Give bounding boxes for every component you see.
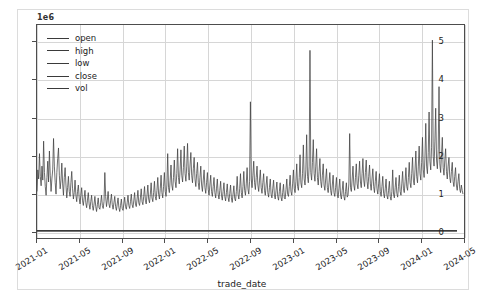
legend-item-low: low	[43, 57, 111, 70]
gridline-x-2024-05	[465, 25, 466, 238]
x-tick-mark-2023-01	[293, 239, 294, 243]
x-tick-label-2024-05: 2024-05	[442, 245, 477, 272]
x-tick-label-2022-05: 2022-05	[185, 245, 220, 272]
legend-item-high: high	[43, 45, 111, 58]
legend-swatch-close	[47, 76, 69, 77]
y-tick-label-5: 5	[439, 36, 444, 46]
x-tick-label-2021-01: 2021-01	[14, 245, 49, 272]
figure-canvas: 1e6 openhighlowclosevol 012345 2021-0120…	[0, 0, 484, 298]
y-tick-label-4: 4	[439, 74, 444, 84]
legend-item-close: close	[43, 70, 111, 83]
y-tick-mark-0	[32, 232, 36, 233]
y-tick-mark-1	[32, 194, 36, 195]
legend-item-open: open	[43, 32, 111, 45]
x-tick-label-2023-01: 2023-01	[271, 245, 306, 272]
y-tick-mark-3	[32, 118, 36, 119]
legend-label-vol: vol	[75, 84, 88, 93]
x-tick-label-2021-05: 2021-05	[57, 245, 92, 272]
clipped-title	[22, 0, 202, 6]
x-tick-label-2023-05: 2023-05	[313, 245, 348, 272]
x-tick-label-2022-01: 2022-01	[142, 245, 177, 272]
x-tick-mark-2021-01	[36, 239, 37, 243]
x-tick-mark-2024-01	[421, 239, 422, 243]
legend-swatch-vol	[47, 88, 69, 89]
y-axis-offset-text: 1e6	[37, 13, 54, 22]
x-tick-label-2022-09: 2022-09	[228, 245, 263, 272]
x-tick-mark-2022-01	[164, 239, 165, 243]
x-tick-label-2024-01: 2024-01	[399, 245, 434, 272]
x-axis-label: trade_date	[0, 279, 484, 289]
x-tick-mark-2021-05	[79, 239, 80, 243]
x-tick-mark-2022-05	[207, 239, 208, 243]
x-tick-mark-2023-05	[336, 239, 337, 243]
y-tick-label-0: 0	[439, 227, 444, 237]
legend-swatch-high	[47, 50, 69, 51]
plot-area: openhighlowclosevol	[36, 24, 465, 239]
legend-label-open: open	[75, 34, 96, 43]
legend: openhighlowclosevol	[41, 29, 113, 98]
y-tick-label-1: 1	[439, 189, 444, 199]
y-tick-mark-2	[32, 156, 36, 157]
y-tick-label-2: 2	[439, 151, 444, 161]
y-tick-mark-4	[32, 79, 36, 80]
y-tick-mark-5	[32, 41, 36, 42]
legend-item-vol: vol	[43, 82, 111, 95]
y-tick-label-3: 3	[439, 113, 444, 123]
x-tick-mark-2024-05	[464, 239, 465, 243]
legend-label-high: high	[75, 47, 94, 56]
x-tick-label-2023-09: 2023-09	[356, 245, 391, 272]
legend-swatch-low	[47, 63, 69, 64]
x-tick-mark-2023-09	[378, 239, 379, 243]
legend-swatch-open	[47, 38, 69, 39]
x-tick-mark-2021-09	[122, 239, 123, 243]
legend-label-close: close	[75, 72, 97, 81]
legend-label-low: low	[75, 59, 90, 68]
x-tick-label-2021-09: 2021-09	[99, 245, 134, 272]
x-tick-mark-2022-09	[250, 239, 251, 243]
